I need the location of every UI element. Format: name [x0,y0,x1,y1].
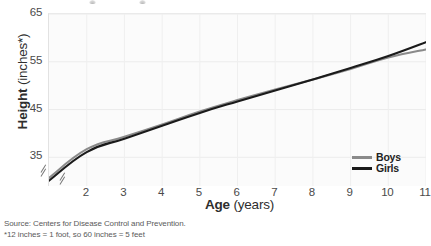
legend: Boys Girls [352,152,401,174]
legend-swatch-girls [352,167,372,170]
x-axis-title: Age (years) [48,197,431,212]
y-axis-break-icon [39,168,48,177]
unit-note: *12 inches = 1 foot, so 60 inches = 5 fe… [4,229,186,240]
y-tick-label: 45 [16,102,42,114]
x-axis-title-bold: Age [205,197,230,212]
legend-item-girls: Girls [352,163,401,174]
x-axis-break-icon [58,176,67,185]
growth-chart: Height (inches*) 35455565 234567891011 A… [0,0,431,246]
source-note: Source: Centers for Disease Control and … [4,218,186,229]
footnotes: Source: Centers for Disease Control and … [4,218,186,240]
y-tick-label: 35 [16,149,42,161]
y-tick-label: 55 [16,54,42,66]
y-tick-label: 65 [16,6,42,18]
x-axis-title-rest: (years) [233,197,274,212]
legend-label-girls: Girls [376,163,399,174]
legend-swatch-boys [352,156,372,159]
